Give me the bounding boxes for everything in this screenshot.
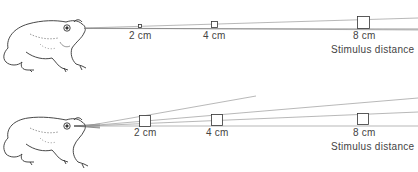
top-panel: 2 cm 4 cm 8 cm Stimulus distance bbox=[0, 0, 418, 86]
bottom-panel: 2 cm 4 cm 8 cm Stimulus distance bbox=[0, 86, 418, 172]
axis-label-stimulus-distance: Stimulus distance bbox=[331, 44, 414, 55]
stimulus-label-2cm: 2 cm bbox=[129, 30, 151, 41]
frog-icon bbox=[4, 20, 86, 72]
stimulus-8cm-square bbox=[358, 114, 369, 125]
stimulus-label-8cm: 8 cm bbox=[353, 30, 375, 41]
frog-icon bbox=[4, 117, 88, 168]
stimulus-4cm-square bbox=[212, 22, 218, 28]
stimulus-4cm-square bbox=[212, 115, 223, 126]
stimulus-label-4cm: 4 cm bbox=[203, 30, 225, 41]
stimulus-label-2cm: 2 cm bbox=[134, 127, 156, 138]
stimulus-label-8cm: 8 cm bbox=[353, 127, 375, 138]
axis-label-stimulus-distance: Stimulus distance bbox=[331, 141, 414, 152]
stimulus-2cm-square bbox=[139, 25, 142, 28]
stimulus-8cm-square bbox=[358, 17, 370, 29]
stimulus-2cm-square bbox=[140, 116, 151, 127]
top-diagram bbox=[0, 0, 418, 86]
stimulus-label-4cm: 4 cm bbox=[206, 127, 228, 138]
